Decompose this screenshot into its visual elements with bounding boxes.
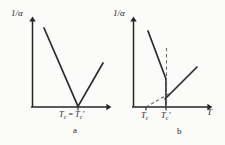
panel-a-y-axis-label: 1/α (11, 9, 23, 18)
panel-b-dashed-extrapolation (146, 92, 172, 107)
panel-b-tick-label-tc: Tc (141, 111, 148, 121)
panel-b-x-axis-label: T (207, 108, 212, 117)
panel-b-tick-label-tc-prime: Tc′ (161, 111, 170, 121)
panel-b-ascending-branch (165, 67, 197, 99)
figure-container: 1/α Tc = Tc′ a 1/α Tc Tc′ T b (0, 0, 225, 145)
panel-a-y-axis-label-numerator: 1/ (11, 8, 18, 18)
panel-a-ascending-branch (78, 63, 103, 106)
panel-a-tick-label-curie: Tc = Tc′ (59, 110, 84, 120)
panel-a-axes (31, 20, 108, 107)
panel-b-y-axis-label-numerator: 1/ (113, 8, 120, 18)
panel-b-tick-sub-1: c (146, 115, 149, 121)
panel-b-caption: b (177, 127, 182, 136)
panel-a-descending-branch (44, 28, 78, 106)
panel-b-curves (146, 31, 197, 111)
figure-canvas (0, 0, 225, 145)
panel-b-descending-branch (148, 31, 166, 79)
panel-a-curves (44, 28, 103, 111)
panel-b-tick-prime-2: ′ (168, 110, 170, 120)
panel-a-tick-equals: = (66, 110, 75, 119)
panel-a-tick-prime-2: ′ (82, 109, 84, 119)
panel-b-y-axis-label: 1/α (113, 9, 125, 18)
panel-a-caption: a (73, 126, 77, 135)
panel-b-y-axis-label-symbol: α (120, 8, 125, 18)
panel-a-y-axis-label-symbol: α (18, 8, 23, 18)
